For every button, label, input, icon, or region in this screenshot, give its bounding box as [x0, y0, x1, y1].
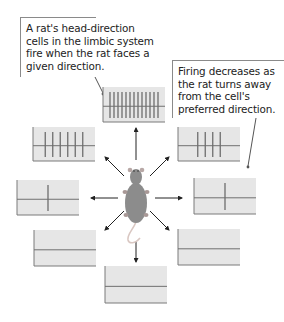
recording-box-southeast: [178, 229, 240, 265]
callout2-line: the rat turns away: [178, 78, 284, 91]
callout2-line: Firing decreases as: [178, 65, 284, 78]
recording-box-northeast: [178, 127, 240, 161]
arrow-northeast: [150, 157, 169, 176]
callout2-line: from the cell's: [178, 90, 284, 103]
callout2-leader-line: [248, 118, 256, 166]
callout1-line: fire when the rat faces a: [26, 47, 96, 60]
recording-box-northwest: [33, 127, 95, 161]
callout2-leader-dot: [247, 166, 250, 169]
recording-box-southwest: [34, 230, 96, 266]
firing-decreases-callout: Firing decreases as the rat turns away f…: [172, 60, 284, 118]
recording-box-east: [194, 178, 256, 214]
callout1-line: given direction.: [26, 60, 96, 73]
arrow-southwest: [105, 211, 124, 230]
recording-box-west: [17, 180, 79, 215]
callout1-line: A rat's head-direction: [26, 22, 96, 35]
arrow-northwest: [105, 157, 124, 176]
recording-box-south: [105, 266, 167, 303]
callout2-line: preferred direction.: [178, 103, 284, 116]
recording-box-north: [103, 87, 165, 122]
callout1-line: cells in the limbic system: [26, 35, 96, 48]
arrow-southeast: [150, 211, 169, 230]
head-direction-callout: A rat's head-direction cells in the limb…: [20, 17, 96, 77]
rat-icon: [123, 168, 150, 243]
